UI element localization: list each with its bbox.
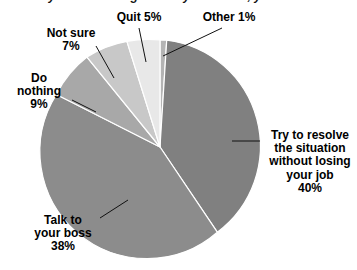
pie-label-resolve-value: 40% bbox=[264, 182, 356, 195]
pie-label-resolve-line4: your job bbox=[264, 169, 356, 182]
pie-label-boss: Talk to your boss 38% bbox=[24, 214, 102, 254]
pie-chart-figure: If you were being sexually harassed, you… bbox=[0, 0, 357, 270]
pie-label-resolve: Try to resolve the situation without los… bbox=[264, 129, 356, 195]
pie-label-notsure-value: 7% bbox=[32, 40, 110, 53]
pie-label-boss-value: 38% bbox=[24, 240, 102, 253]
pie-label-nothing: Do nothing 9% bbox=[8, 72, 70, 112]
pie-label-notsure: Not sure 7% bbox=[32, 27, 110, 53]
pie-label-nothing-value: 9% bbox=[8, 98, 70, 111]
pie-label-resolve-line3: without losing bbox=[264, 155, 356, 168]
pie-label-quit-text: Quit 5% bbox=[108, 11, 170, 24]
pie-label-other: Other 1% bbox=[194, 11, 264, 24]
pie-label-quit: Quit 5% bbox=[108, 11, 170, 24]
pie-label-other-text: Other 1% bbox=[194, 11, 264, 24]
